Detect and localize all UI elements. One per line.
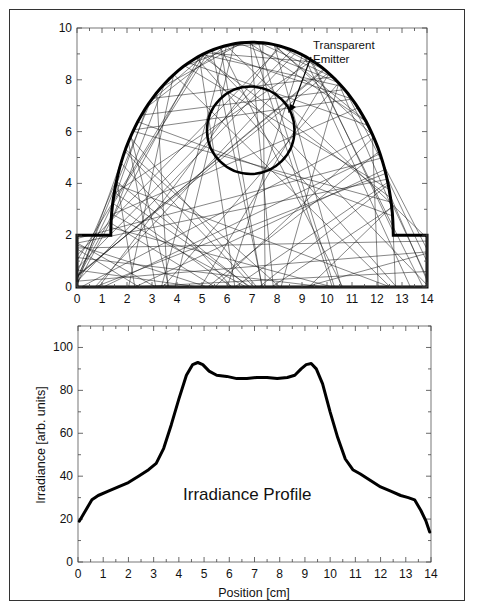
- bottom-plot-x-tick-labels: 01234567891011121314: [75, 567, 438, 581]
- bottom-plot-y-tick-labels: 020406080100: [53, 340, 73, 569]
- x-tick-label: 0: [75, 567, 82, 581]
- x-tick-label: 9: [299, 292, 306, 306]
- x-tick-label: 5: [199, 292, 206, 306]
- y-tick-label: 0: [65, 280, 72, 294]
- irradiance-profile-label: Irradiance Profile: [183, 485, 312, 504]
- ray-segment: [393, 232, 395, 287]
- x-tick-label: 7: [249, 292, 256, 306]
- x-tick-label: 1: [99, 292, 106, 306]
- ray-segment: [185, 66, 390, 190]
- bottom-plot-axes-box: [78, 326, 431, 562]
- x-tick-label: 4: [174, 292, 181, 306]
- ray-segment: [312, 60, 394, 231]
- x-tick-label: 8: [276, 567, 283, 581]
- x-tick-label: 3: [150, 567, 157, 581]
- reflector-outline: [77, 42, 427, 287]
- ray-segment: [235, 182, 388, 287]
- ray-segment: [259, 185, 388, 288]
- ray-segment: [77, 245, 207, 287]
- ray-segment: [281, 83, 339, 287]
- x-tick-label: 11: [346, 292, 359, 306]
- y-tick-label: 2: [65, 228, 72, 242]
- x-axis-title: Position [cm]: [218, 586, 290, 600]
- x-tick-label: 13: [399, 567, 413, 581]
- ray-segment: [134, 272, 427, 288]
- emitter-annotation-line1: Transparent: [313, 39, 375, 51]
- x-tick-label: 14: [424, 567, 438, 581]
- ray-segment: [77, 241, 427, 248]
- x-tick-label: 11: [349, 567, 362, 581]
- ray-segment: [274, 45, 341, 287]
- x-tick-label: 10: [323, 567, 337, 581]
- x-tick-label: 6: [224, 292, 231, 306]
- ray-segment: [272, 207, 392, 287]
- x-tick-label: 1: [100, 567, 107, 581]
- x-tick-label: 7: [251, 567, 258, 581]
- x-tick-label: 0: [74, 292, 81, 306]
- x-tick-label: 4: [176, 567, 183, 581]
- x-tick-label: 3: [149, 292, 156, 306]
- top-plot-x-tick-labels: 01234567891011121314: [74, 292, 434, 306]
- ray-segment: [161, 43, 243, 88]
- bottom-plot-ticks: [78, 326, 431, 562]
- top-plot-axes-box: [77, 28, 427, 287]
- top-plot-ticks: [77, 28, 427, 287]
- x-tick-label: 2: [124, 292, 131, 306]
- figure-canvas: 01234567891011121314 0246810 Transparent…: [0, 0, 478, 614]
- y-tick-label: 8: [65, 73, 72, 87]
- x-tick-label: 12: [370, 292, 384, 306]
- y-tick-label: 80: [60, 383, 74, 397]
- x-tick-label: 13: [395, 292, 409, 306]
- ray-paths: [77, 42, 427, 287]
- y-tick-label: 20: [60, 512, 74, 526]
- x-tick-label: 6: [226, 567, 233, 581]
- ray-segment: [113, 106, 148, 203]
- y-tick-label: 60: [60, 426, 74, 440]
- x-tick-label: 14: [420, 292, 434, 306]
- y-tick-label: 4: [65, 176, 72, 190]
- y-tick-label: 100: [53, 340, 73, 354]
- x-tick-label: 5: [201, 567, 208, 581]
- y-tick-label: 40: [60, 469, 74, 483]
- ray-segment: [77, 56, 200, 284]
- x-tick-label: 10: [320, 292, 334, 306]
- ray-segment: [121, 163, 232, 287]
- y-tick-label: 0: [66, 555, 73, 569]
- x-tick-label: 2: [125, 567, 132, 581]
- ray-trace-plot: 01234567891011121314 0246810 Transparent…: [59, 21, 434, 306]
- ray-segment: [111, 223, 215, 287]
- emitter-annotation-line2: Emitter: [313, 53, 350, 65]
- irradiance-plot: 01234567891011121314 020406080100 Irradi…: [34, 326, 438, 600]
- x-tick-label: 8: [274, 292, 281, 306]
- ray-segment: [114, 61, 312, 194]
- x-tick-label: 12: [374, 567, 388, 581]
- y-tick-label: 10: [59, 21, 73, 35]
- y-axis-title: Irradiance [arb. units]: [34, 386, 48, 503]
- top-plot-y-tick-labels: 0246810: [59, 21, 73, 294]
- ray-segment: [134, 99, 352, 130]
- x-tick-label: 9: [302, 567, 309, 581]
- irradiance-series-line: [79, 363, 429, 533]
- ray-segment: [189, 63, 369, 126]
- y-tick-label: 6: [65, 125, 72, 139]
